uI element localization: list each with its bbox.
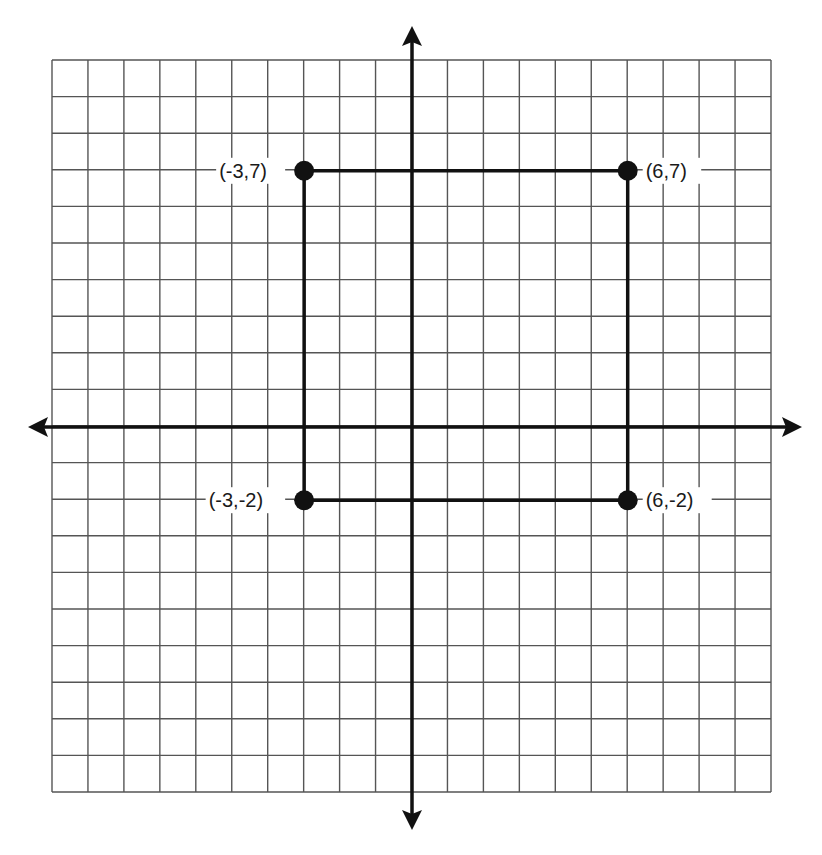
point-label: (6,7) [646, 160, 687, 182]
rectangle-shape [304, 171, 628, 500]
point-marker [618, 161, 638, 181]
point-marker [618, 490, 638, 510]
axes [28, 26, 802, 830]
coordinate-plane: (-3,7)(6,7)(6,-2)(-3,-2) [0, 0, 822, 855]
point-marker [294, 161, 314, 181]
rectangle-outline [304, 171, 628, 500]
point-marker [294, 490, 314, 510]
point-label: (6,-2) [646, 489, 694, 511]
point-label: (-3,-2) [209, 489, 263, 511]
plotted-points: (-3,7)(6,7)(6,-2)(-3,-2) [206, 158, 712, 513]
point-label: (-3,7) [219, 160, 267, 182]
